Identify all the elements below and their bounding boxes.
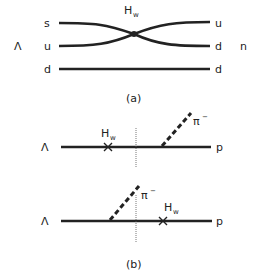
quark-u-left: u [44,40,51,53]
pion-label-top: π [193,115,200,128]
pion-line-top [162,113,191,146]
pion-sup-bottom: − [150,187,156,195]
quark-s-left: s [44,17,50,30]
pion-sup-top: − [202,113,208,121]
hw-label-a: H [124,4,132,17]
diagram-b-top: H w Λ p π − [41,113,223,167]
hw-sub-b-bottom: w [173,208,179,216]
lambda-label-b-top: Λ [41,141,49,154]
hw-sub-a: w [133,11,139,19]
feynman-diagrams: H w Λ s u d u d d n (a) H w Λ p π − Λ p … [0,0,253,277]
quark-d-right: d [215,40,222,53]
proton-label-b-top: p [216,141,223,154]
proton-label-b-bottom: p [216,215,223,228]
diagram-a: H w Λ s u d u d d n (a) [14,4,247,105]
hw-label-b-bottom: H [164,201,172,214]
caption-a: (a) [126,92,141,105]
lambda-label-b-bottom: Λ [41,215,49,228]
lambda-label-a: Λ [14,40,22,53]
diagram-b-bottom: Λ p π − H w (b) [41,186,223,271]
weak-vertex [131,31,137,37]
hw-sub-b-top: w [110,134,116,142]
pion-label-bottom: π [141,189,148,202]
quark-d-left: d [44,63,51,76]
pion-line-bottom [110,186,139,220]
quark-u-right: u [215,17,222,30]
hw-label-b-top: H [101,127,109,140]
quark-d2-right: d [215,63,222,76]
caption-b: (b) [126,258,142,271]
neutron-label: n [240,40,247,53]
